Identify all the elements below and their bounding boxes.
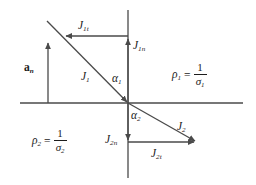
region2-numerator: 1 <box>55 128 65 140</box>
alpha1-subscript: 1 <box>118 78 122 86</box>
j2-label: J2 <box>177 121 186 134</box>
j2n-label: J2n <box>105 134 117 147</box>
region2-denominator: σ2 <box>54 141 67 155</box>
region2-rho-subscript: 2 <box>38 140 42 148</box>
alpha2-label: α2 <box>131 110 141 123</box>
j1n-subscript: 1n <box>138 45 145 53</box>
region1-equals-sign: = <box>184 70 191 82</box>
region1-sigma-subscript: 1 <box>201 81 204 88</box>
j2t-subscript: 2t <box>156 153 162 161</box>
figure-canvas <box>0 0 256 185</box>
alpha1-label: α1 <box>112 73 122 86</box>
region2-resistivity-equation: ρ2 = 1 σ2 <box>32 128 67 155</box>
region1-rho-subscript: 1 <box>178 74 182 82</box>
j2-subscript: 2 <box>182 126 186 134</box>
normal-unit-vector-subscript: n <box>30 67 34 75</box>
region2-equals-sign: = <box>44 136 51 148</box>
region2-sigma-subscript: 2 <box>61 147 64 154</box>
j2t-label: J2t <box>151 148 162 161</box>
region1-rho-symbol: ρ1 <box>172 69 181 82</box>
alpha2-subscript: 2 <box>137 115 141 123</box>
region1-resistivity-equation: ρ1 = 1 σ1 <box>172 62 207 89</box>
current-density-refraction-figure: an J1t J1n J1 α1 α2 J2 J2n J2t ρ1 = 1 σ1… <box>0 0 256 185</box>
j1n-label: J1n <box>133 40 145 53</box>
normal-unit-vector-label: an <box>24 62 34 75</box>
j2n-subscript: 2n <box>110 139 117 147</box>
region2-rho-symbol: ρ2 <box>32 135 41 148</box>
region2-fraction: 1 σ2 <box>54 128 67 155</box>
j1-label: J1 <box>81 71 90 84</box>
region1-fraction: 1 σ1 <box>194 62 207 89</box>
region1-denominator: σ1 <box>194 75 207 89</box>
region1-numerator: 1 <box>195 62 205 74</box>
j1-subscript: 1 <box>86 76 90 84</box>
j1t-label: J1t <box>78 20 89 33</box>
j1t-subscript: 1t <box>83 25 89 33</box>
